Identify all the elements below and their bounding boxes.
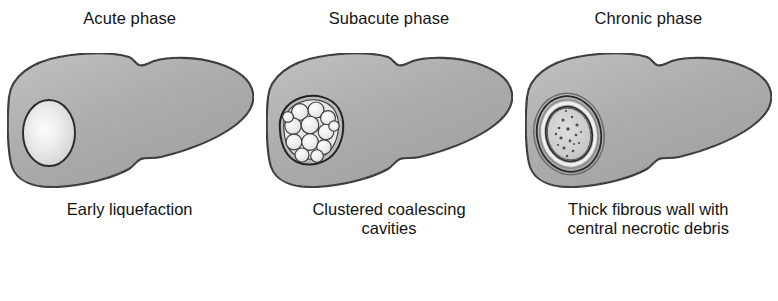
panel-acute-phase: Acute phase bbox=[0, 0, 259, 284]
lesion-subacute-clustered-cavities bbox=[280, 96, 344, 165]
liver-illustration-subacute bbox=[260, 35, 518, 195]
panel-title-acute: Acute phase bbox=[83, 9, 176, 31]
liver-illustration-acute bbox=[1, 35, 259, 195]
panel-caption-acute: Early liquefaction bbox=[67, 200, 193, 219]
figure-credit-clipped bbox=[0, 287, 778, 301]
panel-title-subacute: Subacute phase bbox=[329, 9, 450, 31]
lesion-acute-liquefaction bbox=[23, 100, 75, 166]
liver-diagram-subacute-svg bbox=[260, 35, 518, 195]
panel-caption-chronic: Thick fibrous wall with central necrotic… bbox=[568, 200, 729, 238]
liver-abscess-phases-figure: Acute phase bbox=[0, 0, 778, 301]
liver-diagram-chronic-svg bbox=[519, 35, 777, 195]
panel-caption-subacute: Clustered coalescing cavities bbox=[312, 200, 465, 238]
panel-row: Acute phase bbox=[0, 0, 778, 284]
liver-illustration-chronic bbox=[519, 35, 777, 195]
panel-chronic-phase: Chronic phase bbox=[519, 0, 778, 284]
panel-title-chronic: Chronic phase bbox=[594, 9, 702, 31]
panel-subacute-phase: Subacute phase bbox=[259, 0, 518, 284]
liver-diagram-acute-svg bbox=[1, 35, 259, 195]
